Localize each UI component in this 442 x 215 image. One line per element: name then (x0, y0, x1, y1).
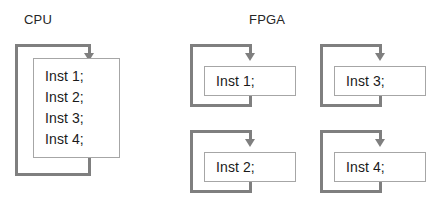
fpga-loop-arrow-icon-4 (375, 139, 385, 147)
fpga-instruction-box-2: Inst 2; (204, 152, 296, 182)
fpga-instruction-box-3: Inst 3; (334, 66, 426, 96)
fpga-loop-arrow-icon-3 (375, 53, 385, 61)
instruction-line: Inst 1; (216, 71, 295, 92)
fpga-instruction-box-4: Inst 4; (334, 152, 426, 182)
instruction-line: Inst 2; (216, 157, 295, 178)
fpga-loop-arrow-icon-1 (245, 53, 255, 61)
instruction-line: Inst 3; (45, 108, 119, 129)
instruction-line: Inst 4; (45, 129, 119, 150)
fpga-section-title: FPGA (249, 12, 285, 28)
instruction-line: Inst 3; (346, 71, 425, 92)
diagram-canvas: CPU Inst 1; Inst 2; Inst 3; Inst 4; FPGA… (0, 0, 442, 215)
instruction-line: Inst 4; (346, 157, 425, 178)
cpu-instruction-box: Inst 1; Inst 2; Inst 3; Inst 4; (33, 58, 120, 158)
fpga-instruction-box-1: Inst 1; (204, 66, 296, 96)
cpu-section-title: CPU (24, 12, 52, 28)
instruction-line: Inst 2; (45, 87, 119, 108)
instruction-line: Inst 1; (45, 66, 119, 87)
fpga-loop-arrow-icon-2 (245, 139, 255, 147)
